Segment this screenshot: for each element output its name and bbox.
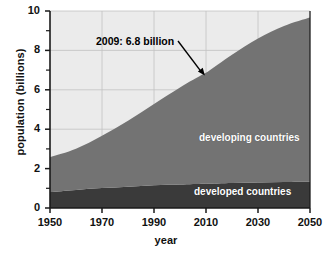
- x-tick-label: 2010: [184, 216, 228, 228]
- series-label-developed-countries: developed countries: [194, 186, 291, 197]
- x-tick-label: 1950: [28, 216, 72, 228]
- population-area-chart: population (billions) year 0246810 19501…: [0, 0, 332, 255]
- x-tick-label: 2030: [236, 216, 280, 228]
- y-tick-label: 0: [14, 201, 40, 213]
- x-tick-label: 1990: [132, 216, 176, 228]
- y-tick-label: 4: [14, 122, 40, 134]
- y-tick-label: 10: [14, 4, 40, 16]
- y-tick-label: 6: [14, 83, 40, 95]
- x-axis-title: year: [0, 234, 332, 246]
- x-tick-label: 1970: [80, 216, 124, 228]
- annotation-label-2009: 2009: 6.8 billion: [96, 35, 174, 47]
- y-tick-label: 8: [14, 43, 40, 55]
- y-tick-label: 2: [14, 162, 40, 174]
- y-axis-title: population (billions): [14, 37, 26, 167]
- x-tick-label: 2050: [288, 216, 332, 228]
- series-label-developing-countries: developing countries: [199, 132, 300, 143]
